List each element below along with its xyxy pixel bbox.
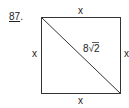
label-diagonal: 8√2 bbox=[83, 44, 100, 54]
diagonal-line bbox=[42, 18, 121, 94]
label-top-side: x bbox=[78, 6, 83, 16]
label-left-side: x bbox=[32, 49, 37, 59]
label-right-side: x bbox=[124, 49, 129, 59]
square-diagram bbox=[0, 0, 129, 108]
diagonal-radicand: 2 bbox=[94, 43, 100, 54]
label-bottom-side: x bbox=[78, 96, 83, 106]
